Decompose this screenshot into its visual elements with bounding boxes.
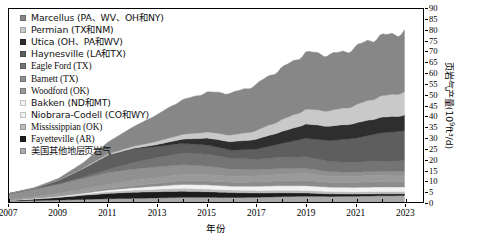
y-axis-tick-label: 90: [429, 4, 438, 13]
legend-item-label: Barnett (TX): [31, 73, 78, 85]
y-axis-tick-mark: [425, 73, 428, 74]
x-axis: 200720092011201320152017201920212023: [8, 204, 424, 220]
y-axis-tick-label: 35: [429, 123, 438, 132]
x-axis-minor-tick: [257, 199, 258, 202]
legend-item-label: Utica (OH、PA和WV): [31, 36, 123, 48]
legend-item[interactable]: Bakken (ND和MT): [20, 97, 164, 109]
x-axis-tick-mark: [405, 204, 406, 207]
legend-item[interactable]: Woodford (OK): [20, 85, 164, 97]
legend-swatch-icon: [20, 27, 26, 33]
x-axis-tick-mark: [58, 204, 59, 207]
y-axis-tick-label: 0: [429, 199, 433, 208]
legend-item-label: Permian (TX和NM): [31, 24, 114, 36]
x-axis-minor-tick: [406, 199, 407, 202]
chart-root: Marcellus (PA、WV、OH和NY)Permian (TX和NM)Ut…: [0, 0, 479, 243]
legend-swatch-icon: [20, 100, 26, 106]
legend-swatch-icon: [20, 39, 26, 45]
legend-item[interactable]: 美国其他地层页岩气: [20, 145, 164, 157]
x-axis-tick-label: 2015: [197, 208, 216, 219]
x-axis-minor-tick: [332, 199, 333, 202]
legend-swatch-icon: [20, 63, 26, 69]
x-axis-tick-label: 2017: [247, 208, 266, 219]
y-axis-tick-mark: [425, 30, 428, 31]
y-axis-tick-label: 70: [429, 47, 438, 56]
legend-item[interactable]: Marcellus (PA、WV、OH和NY): [20, 12, 164, 24]
legend-item-label: Eagle Ford (TX): [31, 60, 91, 72]
y-axis-tick-mark: [425, 19, 428, 20]
y-axis-title: 页岩气产量(109ft³/d): [439, 8, 461, 203]
y-axis-tick-label: 60: [429, 69, 438, 78]
legend-item[interactable]: Mississippian (OK): [20, 121, 164, 133]
legend-item-label: Niobrara-Codell (CO和WY): [31, 109, 149, 121]
y-axis-tick-label: 85: [429, 14, 438, 23]
y-axis-tick-label: 45: [429, 101, 438, 110]
legend-item-label: Bakken (ND和MT): [31, 97, 111, 109]
y-axis-tick-mark: [425, 51, 428, 52]
x-axis-tick-label: 2013: [148, 208, 167, 219]
y-axis-tick-mark: [425, 192, 428, 193]
legend-item[interactable]: Permian (TX和NM): [20, 24, 164, 36]
y-axis-tick-label: 5: [429, 188, 433, 197]
x-axis-minor-tick: [34, 199, 35, 202]
legend-swatch-icon: [20, 76, 26, 82]
x-axis-tick-mark: [306, 204, 307, 207]
x-axis-tick-label: 2023: [396, 208, 415, 219]
legend-item-label: Mississippian (OK): [31, 121, 102, 133]
y-axis-tick-label: 20: [429, 155, 438, 164]
y-axis-tick-mark: [425, 181, 428, 182]
y-axis-tick-mark: [425, 106, 428, 107]
x-axis-minor-tick: [133, 199, 134, 202]
y-axis-title-text: 页岩气产量(109ft³/d): [443, 62, 457, 149]
y-axis-tick-label: 10: [429, 177, 438, 186]
legend-swatch-icon: [20, 136, 26, 142]
y-axis-tick-label: 30: [429, 134, 438, 143]
legend-item[interactable]: Eagle Ford (TX): [20, 60, 164, 72]
y-axis-tick-mark: [425, 160, 428, 161]
x-axis-minor-tick: [158, 199, 159, 202]
y-axis-tick-mark: [425, 203, 428, 204]
x-axis-tick-mark: [207, 204, 208, 207]
y-axis-tick-mark: [425, 116, 428, 117]
y-axis-tick-mark: [425, 41, 428, 42]
x-axis-minor-tick: [307, 199, 308, 202]
x-axis-minor-tick: [282, 199, 283, 202]
legend-swatch-icon: [20, 112, 26, 118]
y-axis-tick-label: 50: [429, 90, 438, 99]
x-axis-tick-mark: [256, 204, 257, 207]
y-axis-tick-label: 15: [429, 166, 438, 175]
legend-item-label: Woodford (OK): [31, 85, 89, 97]
x-axis-tick-label: 2009: [48, 208, 67, 219]
x-axis-minor-tick: [108, 199, 109, 202]
legend-swatch-icon: [20, 148, 26, 154]
y-axis-tick-label: 80: [429, 25, 438, 34]
legend-item-label: Haynesville (LA和TX): [31, 48, 126, 60]
x-axis-minor-tick: [84, 199, 85, 202]
x-axis-title: 年份: [8, 221, 424, 235]
x-axis-tick-label: 2011: [98, 208, 116, 219]
x-axis-tick-label: 2007: [0, 208, 17, 219]
y-axis-tick-label: 65: [429, 58, 438, 67]
legend-item-label: Marcellus (PA、WV、OH和NY): [31, 12, 164, 24]
x-axis-tick-mark: [107, 204, 108, 207]
x-axis-minor-tick: [183, 199, 184, 202]
y-axis-tick-mark: [425, 84, 428, 85]
y-axis-tick-mark: [425, 171, 428, 172]
legend-item[interactable]: Haynesville (LA和TX): [20, 48, 164, 60]
legend-item[interactable]: Fayetteville (AR): [20, 133, 164, 145]
y-axis-tick-mark: [425, 127, 428, 128]
x-axis-minor-tick: [59, 199, 60, 202]
x-axis-tick-label: 2021: [346, 208, 365, 219]
x-axis-minor-tick: [208, 199, 209, 202]
chart-legend: Marcellus (PA、WV、OH和NY)Permian (TX和NM)Ut…: [20, 12, 164, 157]
x-axis-tick-mark: [157, 204, 158, 207]
legend-item[interactable]: Utica (OH、PA和WV): [20, 36, 164, 48]
y-axis-tick-label: 55: [429, 79, 438, 88]
legend-item-label: 美国其他地层页岩气: [31, 145, 111, 157]
legend-swatch-icon: [20, 88, 26, 94]
y-axis-tick-label: 40: [429, 112, 438, 121]
legend-item[interactable]: Barnett (TX): [20, 72, 164, 84]
legend-item[interactable]: Niobrara-Codell (CO和WY): [20, 109, 164, 121]
x-axis-tick-mark: [8, 204, 9, 207]
y-axis-tick-mark: [425, 149, 428, 150]
x-axis-tick-label: 2019: [297, 208, 316, 219]
